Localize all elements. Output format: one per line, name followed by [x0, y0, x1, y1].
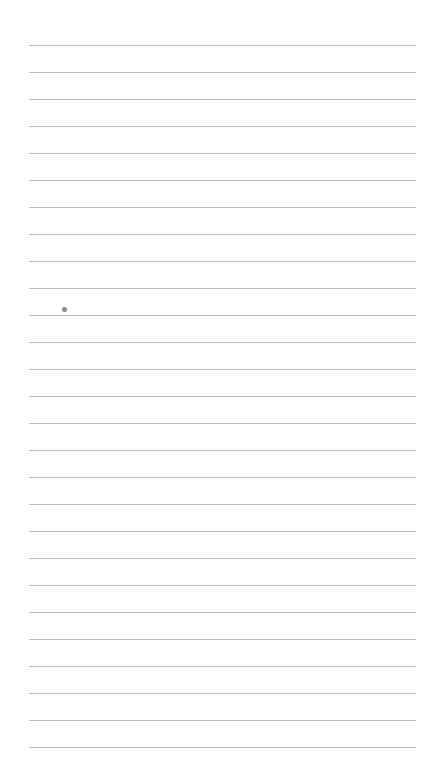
ruled-line [29, 504, 416, 505]
ruled-line [29, 639, 416, 640]
ink-speck [62, 307, 67, 312]
lined-paper-sheet [0, 0, 425, 782]
ruled-line [29, 207, 416, 208]
ruled-line [29, 288, 416, 289]
ruled-line [29, 72, 416, 73]
ruled-line [29, 585, 416, 586]
ruled-line [29, 450, 416, 451]
ruled-line [29, 153, 416, 154]
ruled-line [29, 180, 416, 181]
ruled-line [29, 720, 416, 721]
ruled-line [29, 531, 416, 532]
ruled-line [29, 261, 416, 262]
ruled-line [29, 342, 416, 343]
ruled-line [29, 234, 416, 235]
ruled-line [29, 423, 416, 424]
ruled-line [29, 558, 416, 559]
ruled-line [29, 99, 416, 100]
ruled-line [29, 369, 416, 370]
ruled-line [29, 693, 416, 694]
ruled-line [29, 477, 416, 478]
ruled-line [29, 396, 416, 397]
ruled-line [29, 45, 416, 46]
ruled-line [29, 666, 416, 667]
ruled-line [29, 315, 416, 316]
ruled-line [29, 747, 416, 748]
ruled-line [29, 612, 416, 613]
ruled-line [29, 126, 416, 127]
